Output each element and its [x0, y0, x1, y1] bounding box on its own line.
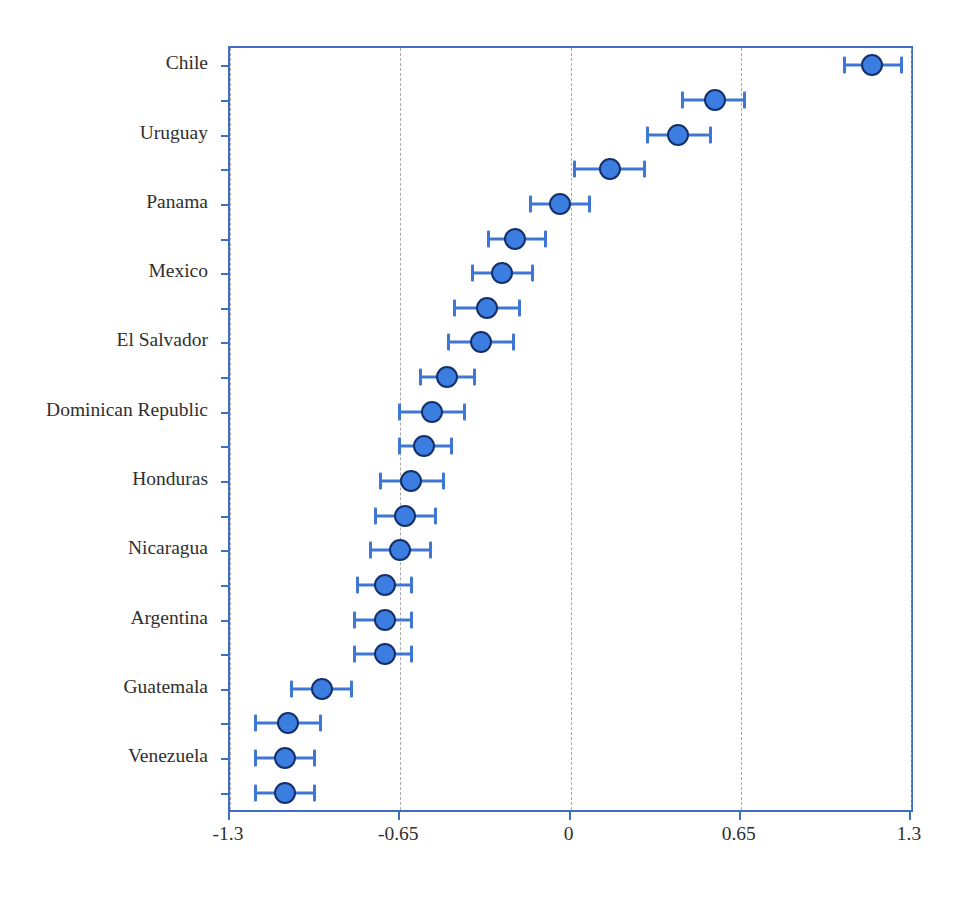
data-point-marker	[667, 124, 689, 146]
y-axis-tick	[221, 100, 230, 102]
x-axis-label-0: 0	[564, 824, 574, 844]
error-bar-cap-high	[743, 91, 746, 108]
plot-area	[228, 46, 913, 812]
x-axis-tick	[569, 812, 571, 820]
error-bar-cap-low	[398, 438, 401, 455]
data-point-marker	[413, 435, 435, 457]
gridline-0.65	[741, 48, 743, 810]
gridline--1.3	[230, 48, 232, 810]
data-point-marker	[504, 228, 526, 250]
y-axis-label-guatemala: Guatemala	[124, 677, 208, 697]
data-point-marker	[374, 643, 396, 665]
data-point-marker	[311, 678, 333, 700]
error-bar-cap-high	[410, 646, 413, 663]
error-bar-cap-high	[450, 438, 453, 455]
data-point-marker	[436, 366, 458, 388]
error-bar-cap-high	[313, 750, 316, 767]
error-bar-cap-high	[319, 715, 322, 732]
error-bar-cap-high	[588, 195, 591, 212]
y-axis-tick	[221, 377, 230, 379]
error-bar-cap-low	[843, 57, 846, 74]
y-axis-label-chile: Chile	[166, 53, 208, 73]
error-bar-cap-low	[681, 91, 684, 108]
error-bar-cap-high	[434, 507, 437, 524]
error-bar-cap-high	[410, 576, 413, 593]
data-point-marker	[374, 609, 396, 631]
error-bar-cap-high	[473, 369, 476, 386]
y-axis-tick	[221, 273, 230, 275]
error-bar-cap-low	[290, 680, 293, 697]
y-axis-label-venezuela: Venezuela	[128, 746, 208, 766]
gridline--0.65	[400, 48, 402, 810]
data-point-marker	[374, 574, 396, 596]
data-point-marker	[274, 747, 296, 769]
error-bar-cap-high	[900, 57, 903, 74]
error-bar-cap-low	[453, 299, 456, 316]
error-bar-cap-low	[419, 369, 422, 386]
error-bar-cap-low	[487, 230, 490, 247]
error-bar-cap-low	[353, 611, 356, 628]
scan-artifact-bottom	[0, 890, 964, 906]
error-bar-cap-low	[369, 542, 372, 559]
y-axis-tick	[221, 169, 230, 171]
error-bar-cap-high	[350, 680, 353, 697]
y-axis-tick	[221, 689, 230, 691]
x-axis-label-0.65: 0.65	[722, 824, 756, 844]
y-axis-tick	[221, 516, 230, 518]
y-axis-label-nicaragua: Nicaragua	[128, 538, 208, 558]
y-axis-tick	[221, 758, 230, 760]
y-axis-tick	[221, 550, 230, 552]
error-bar-cap-low	[254, 715, 257, 732]
data-point-marker	[476, 297, 498, 319]
x-axis-tick	[909, 812, 911, 820]
data-point-marker	[861, 54, 883, 76]
y-axis-tick	[221, 654, 230, 656]
y-axis-label-dominican-republic: Dominican Republic	[46, 400, 208, 420]
error-bar-cap-low	[353, 646, 356, 663]
y-axis-label-panama: Panama	[146, 192, 208, 212]
x-axis-tick	[398, 812, 400, 820]
y-axis-tick	[221, 585, 230, 587]
data-point-marker	[470, 331, 492, 353]
y-axis-tick	[221, 65, 230, 67]
error-bar-cap-high	[410, 611, 413, 628]
forest-plot-figure: ChileUruguayPanamaMexicoEl SalvadorDomin…	[0, 0, 964, 906]
error-bar-cap-high	[512, 334, 515, 351]
y-axis-tick	[221, 723, 230, 725]
x-axis-label-1.3: 1.3	[897, 824, 921, 844]
error-bar-cap-low	[646, 126, 649, 143]
data-point-marker	[491, 262, 513, 284]
data-point-marker	[400, 470, 422, 492]
y-axis-tick	[221, 793, 230, 795]
data-point-marker	[549, 193, 571, 215]
y-axis-tick	[221, 342, 230, 344]
scan-artifact-top	[0, 2, 964, 18]
error-bar-cap-high	[643, 161, 646, 178]
x-axis-tick	[739, 812, 741, 820]
gridline-1.3	[911, 48, 913, 810]
x-axis-label--1.3: -1.3	[213, 824, 244, 844]
error-bar-cap-high	[531, 265, 534, 282]
error-bar-cap-high	[313, 784, 316, 801]
y-axis-tick	[221, 446, 230, 448]
error-bar-cap-high	[518, 299, 521, 316]
error-bar-cap-low	[379, 472, 382, 489]
x-axis-label--0.65: -0.65	[378, 824, 419, 844]
data-point-marker	[277, 712, 299, 734]
data-point-marker	[274, 782, 296, 804]
y-axis-label-honduras: Honduras	[132, 469, 208, 489]
data-point-marker	[704, 89, 726, 111]
y-axis-tick	[221, 308, 230, 310]
y-axis-tick	[221, 412, 230, 414]
y-axis-tick	[221, 481, 230, 483]
error-bar-cap-low	[254, 750, 257, 767]
data-point-marker	[421, 401, 443, 423]
y-axis-tick	[221, 204, 230, 206]
y-axis-label-column: ChileUruguayPanamaMexicoEl SalvadorDomin…	[0, 46, 218, 812]
error-bar-cap-high	[442, 472, 445, 489]
error-bar-cap-high	[463, 403, 466, 420]
error-bar-cap-low	[573, 161, 576, 178]
error-bar-cap-high	[709, 126, 712, 143]
error-bar-cap-low	[374, 507, 377, 524]
x-axis-tick-labels: -1.3-0.6500.651.3	[228, 824, 913, 854]
